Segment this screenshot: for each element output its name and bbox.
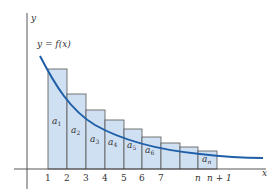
rect-a1 [48, 69, 67, 169]
function-label: y = f(x) [36, 39, 71, 49]
rect-7 [161, 143, 180, 169]
tick-n-plus-1: n + 1 [207, 173, 232, 183]
tick-3: 3 [83, 173, 89, 183]
y-axis-label: y [30, 13, 37, 23]
x-ticks: 1 2 3 4 5 6 7 n n + 1 [45, 173, 232, 183]
tick-5: 5 [121, 173, 127, 183]
tick-n: n [195, 173, 201, 183]
tick-6: 6 [139, 173, 145, 183]
tick-7: 7 [158, 173, 164, 183]
integral-test-diagram: y x y = f(x) 1 2 3 4 5 6 7 n n + 1 a1 a2… [0, 0, 274, 195]
rect-8 [180, 147, 198, 169]
x-axis-label: x [262, 168, 267, 178]
tick-4: 4 [102, 173, 108, 183]
tick-1: 1 [45, 173, 51, 183]
tick-2: 2 [64, 173, 70, 183]
